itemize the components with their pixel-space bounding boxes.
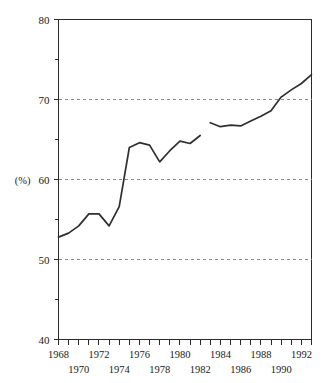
x-tick-label-1982: 1982 (190, 364, 211, 375)
x-tick-label-1974: 1974 (109, 364, 131, 375)
x-tick-label-1978: 1978 (149, 364, 170, 375)
y-tick-label-60: 60 (39, 174, 51, 186)
x-tick-label-1984: 1984 (210, 349, 232, 360)
x-tick-label-1988: 1988 (250, 349, 271, 360)
x-tick-label-1992: 1992 (291, 349, 312, 360)
y-tick-label-80: 80 (39, 14, 51, 26)
x-tick-label-1968: 1968 (48, 349, 69, 360)
y-axis-unit-label: (%) (15, 175, 31, 187)
x-tick-label-1970: 1970 (68, 364, 89, 375)
x-tick-label-1986: 1986 (230, 364, 251, 375)
y-tick-label-40: 40 (39, 334, 51, 346)
y-tick-label-50: 50 (39, 254, 51, 266)
chart-container: 4050607080 19681972197619801984198819921… (0, 0, 330, 383)
x-tick-label-1980: 1980 (169, 349, 190, 360)
y-tick-label-70: 70 (39, 94, 51, 106)
line-chart: 4050607080 19681972197619801984198819921… (0, 0, 330, 383)
y-axis-unit-label: (%) (15, 175, 31, 187)
x-tick-label-1972: 1972 (88, 349, 109, 360)
x-tick-label-1990: 1990 (271, 364, 292, 375)
x-tick-label-1976: 1976 (129, 349, 150, 360)
